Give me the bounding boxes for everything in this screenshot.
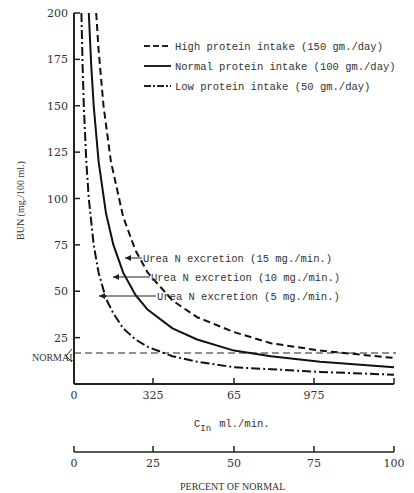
x-tick-label: 975	[304, 389, 325, 402]
annotations: Urea N excretion (15 mg./min.) Urea N ex…	[99, 253, 340, 303]
y-tick-label: 200	[47, 7, 68, 20]
y-tick-label: 50	[54, 285, 68, 298]
percent-tick-label: 75	[307, 457, 321, 470]
percent-tick-label: 0	[71, 457, 78, 470]
percent-ticks: 0255075100	[71, 446, 405, 470]
x-tick-label: 0	[71, 389, 78, 402]
percent-tick-label: 50	[227, 457, 241, 470]
percent-tick-label: 25	[146, 457, 160, 470]
y-ticks: 255075100125150175200	[47, 7, 80, 345]
y-tick-label: 150	[47, 100, 68, 113]
legend-item-normal: Normal protein intake (100 gm./day)	[175, 61, 396, 73]
x-tick-label: 65	[227, 389, 241, 402]
x-axis-label: CInml./min.	[194, 418, 270, 434]
y-tick-label: 100	[47, 193, 68, 206]
arrow-icon	[113, 274, 119, 280]
annotation-10: Urea N excretion (10 mg./min.)	[151, 272, 340, 284]
x-ticks: 032565975	[71, 378, 325, 402]
legend-item-low: Low protein intake (50 gm./day)	[175, 81, 370, 93]
y-axis-label: BUN (mg./100 ml.)	[15, 161, 27, 240]
legend-item-high: High protein intake (150 gm./day)	[175, 41, 383, 53]
y-tick-label: 175	[47, 53, 68, 66]
annotation-5: Urea N excretion (5 mg./min.)	[157, 291, 340, 303]
arrow-icon	[99, 293, 105, 299]
legend: High protein intake (150 gm./day) Normal…	[144, 41, 396, 93]
normal-label: NORMAL	[32, 352, 75, 363]
percent-axis-label: PERCENT OF NORMAL	[180, 481, 285, 492]
annotation-15: Urea N excretion (15 mg./min.)	[143, 253, 332, 265]
percent-tick-label: 100	[384, 457, 405, 470]
y-tick-label: 25	[54, 332, 68, 345]
arrow-icon	[125, 255, 131, 261]
y-tick-label: 125	[47, 146, 68, 159]
y-tick-label: 75	[54, 239, 68, 252]
bun-clearance-chart: 255075100125150175200 032565975 BUN (mg.…	[0, 0, 414, 493]
x-tick-label: 325	[143, 389, 164, 402]
